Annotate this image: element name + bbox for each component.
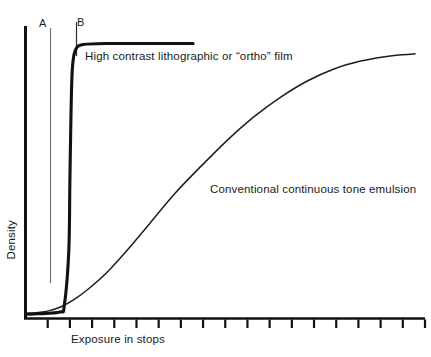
series-group	[28, 43, 415, 314]
series-label-conventional: Conventional continuous tone emulsion	[210, 184, 416, 196]
series-label-high-contrast: High contrast lithographic or “ortho” fi…	[85, 51, 293, 63]
y-axis-label: Density	[6, 210, 18, 270]
marker-label-b: B	[77, 17, 84, 28]
x-axis-tick-group	[48, 320, 425, 329]
marker-label-a: A	[39, 18, 46, 29]
characteristic-curve-figure: A B High contrast lithographic or “ortho…	[0, 0, 431, 357]
x-axis-label: Exposure in stops	[71, 334, 165, 346]
curve-high-contrast-litho	[28, 43, 193, 314]
axes-group	[24, 26, 425, 328]
